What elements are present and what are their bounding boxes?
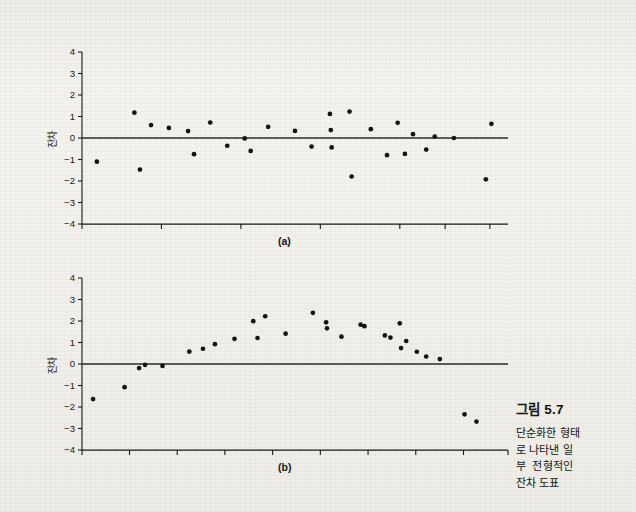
data-point bbox=[462, 412, 467, 417]
panel-label-b: (b) bbox=[278, 461, 291, 473]
y-axis-label-a: 잔차 bbox=[44, 131, 59, 148]
data-point bbox=[225, 143, 230, 148]
data-point bbox=[329, 145, 334, 150]
data-point bbox=[368, 127, 373, 132]
data-point bbox=[91, 397, 96, 402]
data-point bbox=[167, 126, 172, 131]
data-point bbox=[328, 128, 333, 133]
data-point bbox=[143, 363, 148, 368]
data-point bbox=[383, 333, 388, 338]
residual-plot-a-canvas: 43210−1−2−3−4 bbox=[60, 46, 510, 236]
residual-plot-b-canvas: 43210−1−2−3−4 bbox=[60, 272, 510, 462]
data-point bbox=[432, 134, 437, 139]
y-tick-label: 1 bbox=[70, 111, 75, 122]
caption-line: 단순화한 형태 bbox=[516, 425, 628, 442]
y-tick-label: 3 bbox=[70, 294, 75, 305]
data-point bbox=[137, 366, 142, 371]
data-point bbox=[437, 357, 442, 362]
data-point bbox=[385, 153, 390, 158]
data-point bbox=[149, 123, 154, 128]
data-point bbox=[138, 167, 143, 172]
data-point bbox=[328, 112, 333, 117]
figure-caption: 그림 5.7 단순화한 형태로 나타낸 일부 전형적인잔차 도표 bbox=[516, 398, 628, 491]
caption-line: 잔차 도표 bbox=[516, 475, 628, 492]
y-tick-label: 2 bbox=[70, 89, 75, 100]
data-point bbox=[255, 336, 260, 341]
y-tick-label: −3 bbox=[64, 423, 75, 434]
data-point bbox=[414, 349, 419, 354]
y-tick-label: 4 bbox=[70, 272, 76, 283]
data-point bbox=[186, 129, 191, 134]
figure-caption-title: 그림 5.7 bbox=[516, 398, 628, 418]
data-point bbox=[324, 320, 329, 325]
data-point bbox=[483, 177, 488, 182]
data-point bbox=[452, 136, 457, 141]
figure-caption-body: 단순화한 형태로 나타낸 일부 전형적인잔차 도표 bbox=[516, 425, 628, 491]
data-point bbox=[187, 349, 192, 354]
data-point bbox=[95, 159, 100, 164]
data-point bbox=[192, 152, 197, 157]
y-tick-label: 2 bbox=[70, 315, 75, 326]
data-point bbox=[349, 174, 354, 179]
y-tick-label: −2 bbox=[64, 175, 75, 186]
data-point bbox=[160, 364, 165, 369]
y-tick-label: 0 bbox=[70, 358, 75, 369]
data-point bbox=[122, 385, 127, 390]
data-point bbox=[399, 346, 404, 351]
data-point bbox=[347, 109, 352, 114]
y-tick-label: −1 bbox=[64, 380, 75, 391]
data-point bbox=[403, 152, 408, 157]
data-point bbox=[424, 354, 429, 359]
caption-line: 로 나타낸 일 bbox=[516, 442, 628, 459]
data-point bbox=[232, 336, 237, 341]
y-tick-label: 1 bbox=[70, 337, 75, 348]
data-point bbox=[283, 331, 288, 336]
y-tick-label: −4 bbox=[64, 218, 76, 229]
data-point bbox=[397, 321, 402, 326]
caption-line: 부 전형적인 bbox=[516, 458, 628, 475]
y-tick-label: 0 bbox=[70, 132, 75, 143]
y-tick-label: 3 bbox=[70, 68, 75, 79]
data-point bbox=[266, 124, 271, 129]
data-point bbox=[424, 147, 429, 152]
data-point bbox=[132, 110, 137, 115]
data-point bbox=[248, 149, 253, 154]
data-point bbox=[311, 310, 316, 315]
y-axis-label-b: 잔차 bbox=[44, 357, 59, 374]
y-tick-label: −2 bbox=[64, 401, 75, 412]
y-tick-label: −3 bbox=[64, 197, 75, 208]
data-point bbox=[388, 335, 393, 340]
data-point bbox=[242, 136, 247, 141]
y-tick-label: −1 bbox=[64, 154, 75, 165]
data-point bbox=[339, 334, 344, 339]
y-tick-label: 4 bbox=[70, 46, 76, 57]
data-point bbox=[293, 129, 298, 134]
data-point bbox=[411, 132, 416, 137]
data-point bbox=[474, 419, 479, 424]
y-tick-label: −4 bbox=[64, 444, 76, 455]
data-point bbox=[489, 121, 494, 126]
data-point bbox=[263, 314, 268, 319]
data-point bbox=[404, 339, 409, 344]
data-point bbox=[213, 342, 218, 347]
data-point bbox=[208, 120, 213, 125]
data-point bbox=[325, 326, 330, 331]
data-point bbox=[251, 319, 256, 324]
residual-plot-b: 43210−1−2−3−4 bbox=[60, 272, 510, 462]
data-point bbox=[201, 346, 206, 351]
panel-label-a: (a) bbox=[278, 235, 291, 247]
residual-plot-a: 43210−1−2−3−4 bbox=[60, 46, 510, 236]
data-point bbox=[362, 324, 367, 329]
data-point bbox=[395, 120, 400, 125]
data-point bbox=[309, 144, 314, 149]
